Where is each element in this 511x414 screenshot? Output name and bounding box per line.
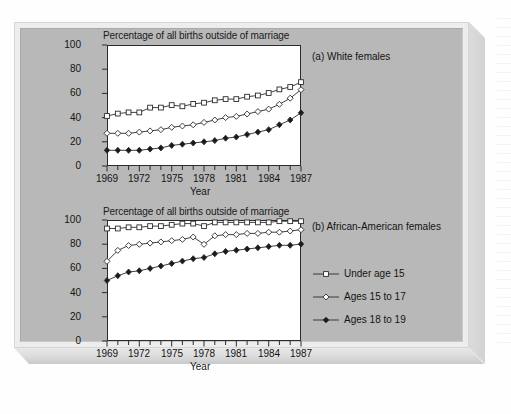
panel-b-canvas	[80, 213, 320, 363]
legend-label-ages-18-to-19: Ages 18 to 19	[344, 314, 406, 326]
panel-b: Percentage of all births outside of marr…	[0, 0, 511, 414]
panel-b-xtick-1975: 1975	[156, 348, 188, 359]
panel-b-series-under-15	[105, 219, 304, 231]
legend-label-under-age-15: Under age 15	[344, 268, 405, 280]
panel-b-xtick-1987: 1987	[285, 348, 317, 359]
panel-b-xtick-1969: 1969	[91, 348, 123, 359]
open-diamond-marker-icon	[313, 291, 339, 303]
panel-b-ytick-80: 80	[59, 238, 81, 249]
panel-b-xtick-1978: 1978	[188, 348, 220, 359]
panel-b-ytick-60: 60	[59, 262, 81, 273]
panel-b-xaxis-label: Year	[190, 361, 210, 372]
panel-b-xtick-1981: 1981	[220, 348, 252, 359]
panel-b-label: (b) African-American females	[312, 221, 441, 232]
figure-page: Percentage of all births outside of marr…	[0, 0, 511, 414]
legend-item-under-age-15: Under age 15	[313, 268, 405, 280]
panel-b-ytick-100: 100	[59, 214, 81, 225]
panel-b-ytick-40: 40	[59, 287, 81, 298]
panel-b-xtick-1972: 1972	[123, 348, 155, 359]
panel-b-ytick-0: 0	[59, 335, 81, 346]
filled-diamond-marker-icon	[313, 314, 339, 326]
legend-item-ages-15-to-17: Ages 15 to 17	[313, 291, 406, 303]
legend-label-ages-15-to-17: Ages 15 to 17	[344, 291, 406, 303]
panel-b-xtick-1984: 1984	[253, 348, 285, 359]
legend-item-ages-18-to-19: Ages 18 to 19	[313, 314, 406, 326]
open-square-marker-icon	[313, 268, 339, 280]
panel-b-ytick-20: 20	[59, 311, 81, 322]
